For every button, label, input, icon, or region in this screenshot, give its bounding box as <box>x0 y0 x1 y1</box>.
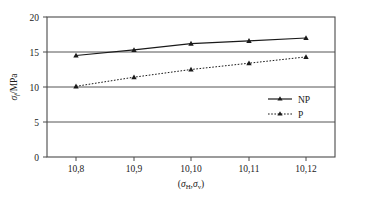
y-tick-label-10: 10 <box>30 83 40 93</box>
x-axis-title: (σH,σv) <box>178 179 204 190</box>
x-axis-title-close: ) <box>201 179 204 190</box>
legend-label-p: P <box>298 110 303 120</box>
y-tick-label-0: 0 <box>34 153 39 163</box>
x-tick-label-0: 10,8 <box>68 164 85 174</box>
y-tick-label-5: 5 <box>34 118 39 128</box>
y-tick-label-15: 15 <box>30 48 40 58</box>
y-axis-title: σf/MPa <box>9 73 20 101</box>
x-tick-label-3: 10,11 <box>238 164 259 174</box>
legend-label-np: NP <box>298 95 310 105</box>
y-axis-title-unit: /MPa <box>9 73 19 94</box>
y-axis-ticks <box>43 17 47 157</box>
svg-text:σf/MPa: σf/MPa <box>9 73 20 101</box>
y-tick-label-20: 20 <box>30 13 40 23</box>
x-tick-label-1: 10,9 <box>126 164 143 174</box>
line-chart: 0 5 10 15 20 10,8 10,9 10,10 10,11 10,12… <box>0 0 378 201</box>
x-tick-label-2: 10,10 <box>180 164 202 174</box>
chart-figure: 0 5 10 15 20 10,8 10,9 10,10 10,11 10,12… <box>0 0 378 201</box>
x-tick-label-4: 10,12 <box>295 164 317 174</box>
x-axis-ticks <box>76 157 306 161</box>
